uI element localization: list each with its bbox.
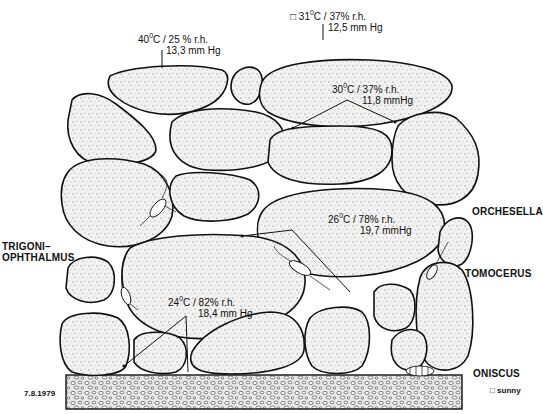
temp-rh-text: C / 25 % r.h. bbox=[153, 34, 208, 45]
stone bbox=[391, 330, 427, 371]
stone bbox=[170, 173, 259, 222]
sunny-marker-icon: □ bbox=[490, 386, 495, 395]
temp-value: 30 bbox=[332, 84, 343, 95]
stone bbox=[60, 313, 129, 375]
stone bbox=[392, 112, 479, 204]
temp-rh-text: C / 37% r.h. bbox=[314, 11, 366, 22]
species-trigonophthalmus: TRIGONI– OPHTHALMUS bbox=[2, 241, 75, 263]
vapor-pressure: 12,5 mm Hg bbox=[290, 22, 382, 33]
stone bbox=[170, 109, 284, 171]
vapor-pressure: 11,8 mmHg bbox=[332, 95, 413, 106]
stone bbox=[231, 67, 262, 104]
measurement-40c: 400C / 25 % r.h. 13,3 mm Hg bbox=[138, 30, 220, 56]
vapor-pressure: 13,3 mm Hg bbox=[138, 45, 220, 56]
measurement-30c: 300C / 37% r.h. 11,8 mmHg bbox=[332, 80, 413, 106]
stone bbox=[66, 257, 114, 302]
species-orchesella: ORCHESELLA bbox=[472, 206, 543, 217]
species-label-line1: TRIGONI– bbox=[2, 241, 51, 252]
temp-value: 40 bbox=[138, 34, 149, 45]
oniscus-woodlouse bbox=[406, 366, 434, 376]
date-label: 7.8.1979 bbox=[24, 388, 55, 399]
stone bbox=[134, 332, 186, 373]
species-tomocerus: TOMOCERUS bbox=[465, 268, 532, 279]
gravel-substrate bbox=[66, 375, 462, 409]
measurement-31c: □ 310C / 37% r.h. 12,5 mm Hg bbox=[290, 7, 382, 33]
sunny-marker-icon: □ bbox=[290, 11, 296, 22]
stone bbox=[108, 66, 227, 115]
vapor-pressure: 19,7 mmHg bbox=[328, 225, 412, 236]
legend-label: sunny bbox=[497, 386, 521, 395]
temp-value: 24 bbox=[168, 297, 179, 308]
temp-value: 26 bbox=[328, 214, 339, 225]
legend: □ sunny bbox=[490, 385, 521, 396]
temp-rh-text: C / 78% r.h. bbox=[343, 214, 395, 225]
stone bbox=[438, 218, 472, 266]
stone bbox=[268, 126, 392, 184]
species-oniscus: ONISCUS bbox=[473, 368, 520, 379]
temp-rh-text: C / 82% r.h. bbox=[183, 297, 235, 308]
measurement-26c: 260C / 78% r.h. 19,7 mmHg bbox=[328, 210, 412, 236]
species-label-line2: OPHTHALMUS bbox=[2, 252, 75, 263]
temp-rh-text: C / 37% r.h. bbox=[347, 84, 399, 95]
stone bbox=[374, 284, 415, 330]
measurement-24c: 240C / 82% r.h. 18,4 mm Hg bbox=[168, 293, 252, 319]
temp-value: 31 bbox=[299, 11, 310, 22]
vapor-pressure: 18,4 mm Hg bbox=[168, 308, 252, 319]
stone bbox=[305, 307, 370, 373]
